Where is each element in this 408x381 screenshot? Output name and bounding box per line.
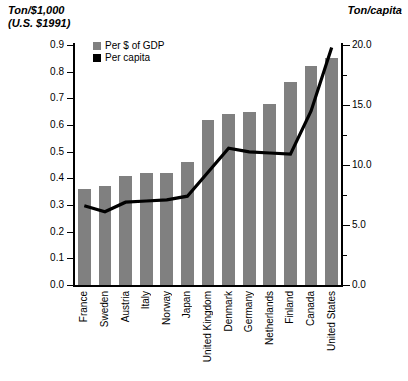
y-axis-right-minor-tick xyxy=(343,135,347,136)
x-axis-category-label: Austria xyxy=(121,291,131,322)
legend-item: Per capita xyxy=(93,52,164,64)
plot-area xyxy=(74,45,342,285)
right-axis-title: Ton/capita xyxy=(347,4,402,17)
per-capita-line xyxy=(84,47,331,211)
left-axis-title-line1: Ton/$1,000 xyxy=(8,4,70,17)
x-axis xyxy=(73,285,343,287)
left-axis-title-line2: (U.S. $1991) xyxy=(8,17,70,30)
y-axis-right-tick xyxy=(343,285,350,286)
x-axis-category-label: Japan xyxy=(182,291,192,318)
y-axis-left-tick xyxy=(67,232,74,233)
y-axis-left-tick xyxy=(67,285,74,286)
y-axis-right-tick xyxy=(343,105,350,106)
legend-swatch-icon xyxy=(93,42,101,50)
y-axis-left-tick xyxy=(67,152,74,153)
y-axis-left-tick-label: 0.2 xyxy=(50,227,64,237)
y-axis-right-tick-label: 10.0 xyxy=(352,160,371,170)
x-axis-category-label: Germany xyxy=(244,291,254,332)
x-axis-category-label: United Kingdom xyxy=(203,291,213,362)
x-axis-category-label: Italy xyxy=(141,291,151,309)
y-axis-left-tick-label: 0.1 xyxy=(50,253,64,263)
y-axis-right-minor-tick xyxy=(343,255,347,256)
x-axis-category-label: Finland xyxy=(285,291,295,324)
y-axis-right-minor-tick xyxy=(343,195,347,196)
x-axis-category-label: Sweden xyxy=(100,291,110,327)
y-axis-left-tick xyxy=(67,125,74,126)
chart-container: Ton/$1,000 (U.S. $1991) Ton/capita 0.00.… xyxy=(0,0,408,381)
y-axis-right-tick xyxy=(343,165,350,166)
y-axis-left-tick xyxy=(67,258,74,259)
y-axis-left-tick-label: 0.4 xyxy=(50,173,64,183)
y-axis-left-tick xyxy=(67,205,74,206)
y-axis-right-tick-label: 0.0 xyxy=(352,280,366,290)
x-axis-category-label: France xyxy=(79,291,89,322)
legend-swatch-icon xyxy=(93,54,101,62)
y-axis-left-tick-label: 0.5 xyxy=(50,147,64,157)
y-axis-left-tick-label: 0.0 xyxy=(50,280,64,290)
legend-item-label: Per capita xyxy=(105,52,150,64)
y-axis-right-tick xyxy=(343,45,350,46)
y-axis-left-tick xyxy=(67,98,74,99)
y-axis-right-tick-label: 15.0 xyxy=(352,100,371,110)
x-axis-category-label: Netherlands xyxy=(265,291,275,345)
y-axis-left-tick xyxy=(67,178,74,179)
legend: Per $ of GDPPer capita xyxy=(93,40,164,64)
y-axis-right-tick xyxy=(343,225,350,226)
y-axis-left-tick xyxy=(67,45,74,46)
x-axis-category-label: Norway xyxy=(162,291,172,325)
y-axis-left-tick-label: 0.7 xyxy=(50,93,64,103)
y-axis-right-tick-label: 5.0 xyxy=(352,220,366,230)
x-axis-category-label: Denmark xyxy=(224,291,234,332)
y-axis-left-tick-label: 0.6 xyxy=(50,120,64,130)
x-axis-category-label: United States xyxy=(327,291,337,351)
y-axis-left-tick-label: 0.3 xyxy=(50,200,64,210)
y-axis-right-tick-label: 20.0 xyxy=(352,40,371,50)
legend-item-label: Per $ of GDP xyxy=(105,40,164,52)
left-axis-title: Ton/$1,000 (U.S. $1991) xyxy=(8,4,70,30)
y-axis-left-tick-label: 0.8 xyxy=(50,67,64,77)
x-axis-category-label: Canada xyxy=(306,291,316,326)
y-axis-right-minor-tick xyxy=(343,75,347,76)
legend-item: Per $ of GDP xyxy=(93,40,164,52)
y-axis-left-tick-label: 0.9 xyxy=(50,40,64,50)
per-capita-line-layer xyxy=(74,45,342,285)
y-axis-left-tick xyxy=(67,72,74,73)
